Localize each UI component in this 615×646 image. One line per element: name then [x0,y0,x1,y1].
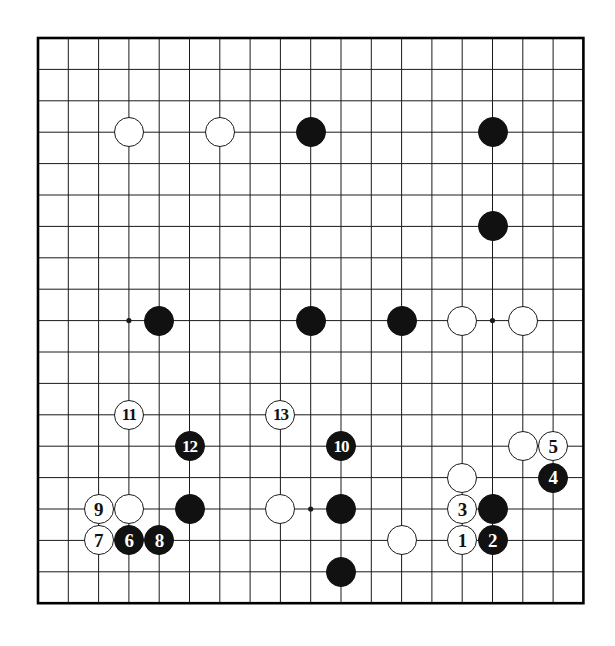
white-stone[interactable] [447,463,477,493]
black-stone[interactable] [478,494,508,524]
move-number-label: 4 [549,468,558,487]
white-stone-move-3[interactable]: 3 [447,494,477,524]
black-stone-move-2[interactable]: 2 [478,525,508,555]
white-stone-move-7[interactable]: 7 [84,525,114,555]
move-number-label: 5 [549,436,558,455]
move-number-label: 2 [488,530,497,549]
black-stone[interactable] [296,306,326,336]
white-stone-move-9[interactable]: 9 [84,494,114,524]
white-stone[interactable] [508,431,538,461]
white-stone-move-11[interactable]: 11 [114,400,144,430]
move-number-label: 13 [273,406,288,423]
move-number-label: 1 [458,530,467,549]
white-stone[interactable] [205,117,235,147]
star-point [126,318,131,323]
black-stone[interactable] [326,557,356,587]
go-board[interactable]: 11131210549376812 [0,0,615,646]
white-stone[interactable] [114,494,144,524]
move-number-label: 7 [94,530,103,549]
black-stone[interactable] [175,494,205,524]
white-stone[interactable] [508,306,538,336]
go-diagram-page: 11131210549376812 [0,0,615,646]
black-stone[interactable] [326,494,356,524]
black-stone[interactable] [296,117,326,147]
move-number-label: 8 [155,530,164,549]
star-point [490,318,495,323]
move-number-label: 9 [94,499,103,518]
move-number-label: 11 [122,406,136,423]
move-number-label: 12 [182,437,197,454]
white-stone[interactable] [114,117,144,147]
black-stone-move-10[interactable]: 10 [326,431,356,461]
white-stone-move-13[interactable]: 13 [265,400,295,430]
star-point [308,506,313,511]
black-stone[interactable] [144,306,174,336]
black-stone-move-4[interactable]: 4 [538,463,568,493]
black-stone[interactable] [478,211,508,241]
black-stone[interactable] [387,306,417,336]
move-number-label: 6 [124,530,133,549]
black-stone[interactable] [478,117,508,147]
move-number-label: 10 [334,437,349,454]
black-stone-move-12[interactable]: 12 [175,431,205,461]
move-number-label: 3 [458,499,467,518]
white-stone[interactable] [447,306,477,336]
white-stone[interactable] [387,525,417,555]
